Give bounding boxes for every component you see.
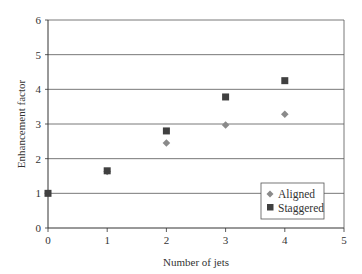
x-tick-label: 3 xyxy=(223,234,229,246)
legend-label-staggered: Staggered xyxy=(278,202,324,215)
y-tick-label: 1 xyxy=(36,187,42,199)
y-tick-label: 5 xyxy=(36,49,42,61)
x-tick-label: 2 xyxy=(164,234,170,246)
legend: Aligned Staggered xyxy=(261,183,324,219)
y-tick-label: 0 xyxy=(36,222,42,234)
y-tick-label: 2 xyxy=(36,153,42,165)
x-tick-label: 5 xyxy=(341,234,347,246)
staggered-data-point xyxy=(163,127,170,134)
x-tick-label: 4 xyxy=(282,234,288,246)
aligned-data-point xyxy=(163,139,171,147)
aligned-data-point xyxy=(222,121,230,129)
aligned-data-point xyxy=(281,110,289,118)
y-tick-label: 4 xyxy=(36,83,42,95)
gridlines xyxy=(48,20,344,193)
legend-label-aligned: Aligned xyxy=(278,188,315,201)
y-tick-label: 6 xyxy=(36,14,42,26)
x-axis-title: Number of jets xyxy=(163,256,229,268)
data-points xyxy=(44,77,288,197)
staggered-data-point xyxy=(281,77,288,84)
y-axis-title: Enhancement factor xyxy=(15,80,27,169)
staggered-data-point xyxy=(104,167,111,174)
y-tick-label: 3 xyxy=(36,118,42,130)
x-tick-label: 0 xyxy=(45,234,51,246)
square-marker-icon xyxy=(267,204,274,211)
x-tick-label: 1 xyxy=(104,234,110,246)
scatter-chart: 0123456012345 Number of jets Enhancement… xyxy=(0,0,362,274)
staggered-data-point xyxy=(222,93,229,100)
staggered-data-point xyxy=(45,190,52,197)
